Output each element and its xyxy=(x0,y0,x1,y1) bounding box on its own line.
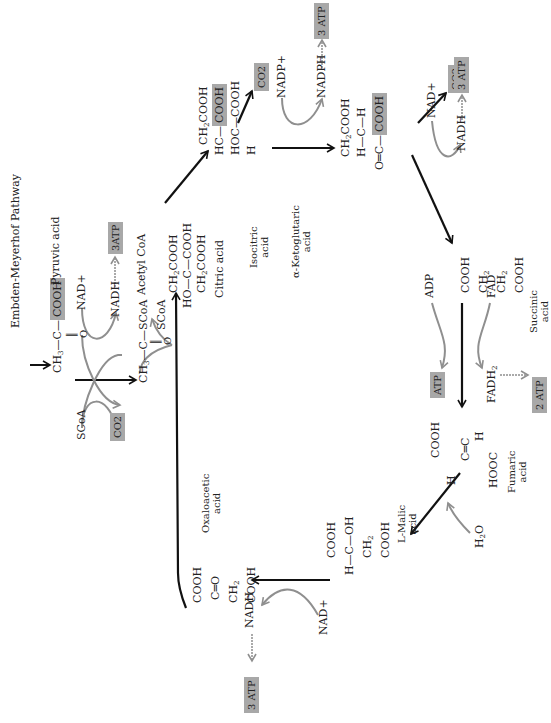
malic-r1: COOH xyxy=(326,522,338,558)
oxaloacetic-acid-label: Oxaloaceticacid xyxy=(200,474,222,533)
nadp-plus: NADP+ xyxy=(276,55,288,98)
arrow-ketoglutarate-to-succinate xyxy=(412,155,452,243)
malic-acid-label: L-Malicacid xyxy=(396,505,418,543)
arrows-layer xyxy=(0,0,551,723)
citric-r2: HO—C—COOH xyxy=(182,223,194,308)
malic-r4: COOH xyxy=(380,522,392,558)
arrow-nad-to-nadh-6 xyxy=(262,590,318,615)
arrow-nadp-to-nadph xyxy=(282,98,322,124)
oxaloacetic-r4: COOH xyxy=(246,567,258,603)
pathway-title: Embden-Meyerhof Pathway xyxy=(10,174,22,328)
isocitric-acid-label: Isocitricacid xyxy=(248,227,270,269)
fadh2: FADH2 xyxy=(486,365,498,403)
nadh-1: NADH xyxy=(110,281,122,317)
fumaric-r2: H xyxy=(446,475,458,485)
scoa-released: SCoA xyxy=(156,299,168,330)
fumaric-h: H xyxy=(474,431,486,441)
acetyl-coa-formula: CH3—C—SCoA xyxy=(138,300,150,383)
arrow-citrate-to-isocitrate xyxy=(165,151,208,203)
co2-box-1: CO2 xyxy=(110,413,125,441)
nad-plus-1: NAD+ xyxy=(76,274,88,310)
fumaric-r1: COOH xyxy=(430,422,442,458)
pyruvic-acid-formula: CH3—C—COOH xyxy=(52,278,64,373)
arrow-adp-to-atp xyxy=(432,303,445,368)
fumaric-acid-label: Fumaricacid xyxy=(506,451,528,493)
adp: ADP xyxy=(424,274,436,298)
fumaric-r3: HOOC xyxy=(488,452,500,488)
isocitric-r1: CH2COOH xyxy=(198,86,210,145)
atp-box-5: 2 ATP xyxy=(532,377,547,413)
malic-r3: CH2 xyxy=(362,536,374,558)
oxaloacetic-r1: COOH xyxy=(192,567,204,603)
atp-box-2: 3 ATP xyxy=(314,3,329,39)
pyruvic-acid-label: Pyruvic acid xyxy=(50,216,62,285)
nad-plus-3: NAD+ xyxy=(426,82,438,118)
succinic-r1: COOH xyxy=(460,257,472,293)
arrow-oxaloacetate-to-citrate xyxy=(165,463,178,613)
isocitric-r2: HC—COOH xyxy=(214,84,226,155)
ketoglutaric-r1: CH2COOH xyxy=(340,98,352,157)
fad: FAD xyxy=(486,275,498,298)
atp-box-4: ATP xyxy=(430,372,445,398)
atp-box-3: 3 ATP xyxy=(454,57,469,93)
malic-r2: H—C—OH xyxy=(344,516,356,575)
atp-box-6: 3 ATP xyxy=(244,677,259,713)
fumaric-double-bond: C═C xyxy=(460,438,472,461)
oxaloacetic-r2: C═O xyxy=(210,576,222,600)
citric-acid-label: Citric acid xyxy=(214,240,226,298)
acetyl-coa-label: Acetyl CoA xyxy=(136,234,148,295)
isocitric-cooh-highlight: COOH xyxy=(212,84,227,126)
atp-box-1: 3ATP xyxy=(108,222,123,254)
h2o: H2O xyxy=(474,525,486,548)
ketoglutaric-r3: O═C—COOH xyxy=(374,93,386,170)
arrow-h2o-in xyxy=(448,503,470,533)
krebs-cycle-diagram: Embden-Meyerhof Pathway CH3—C—COOH ║O Py… xyxy=(0,0,551,723)
ketoglutaric-r2: H—C—H xyxy=(356,107,368,157)
nadph: NADPH xyxy=(316,55,328,98)
nad-plus-6: NAD+ xyxy=(318,599,330,635)
succinic-acid-label: Succinicacid xyxy=(528,290,550,333)
oxaloacetic-r3: CH2 xyxy=(228,581,240,603)
citric-r3: CH2COOH xyxy=(196,234,208,293)
acetyl-oxo: ║O xyxy=(150,337,174,345)
pyruvic-oxo: ║O xyxy=(66,330,90,338)
ketoglutaric-cooh-highlight: COOH xyxy=(372,93,387,135)
citric-r1: CH2COOH xyxy=(168,234,180,293)
isocitric-r3: HOC—COOH xyxy=(230,81,242,155)
nadh-3: NADH xyxy=(456,115,468,151)
ketoglutaric-acid-label: α-Ketoglutaricacid xyxy=(290,205,312,278)
scoa-input: SCoA xyxy=(76,409,88,440)
co2-box-2: CO2 xyxy=(254,63,269,91)
isocitric-r4: H xyxy=(246,145,258,155)
succinic-r4: COOH xyxy=(514,257,526,293)
arrow-fad-to-fadh2 xyxy=(478,303,490,368)
